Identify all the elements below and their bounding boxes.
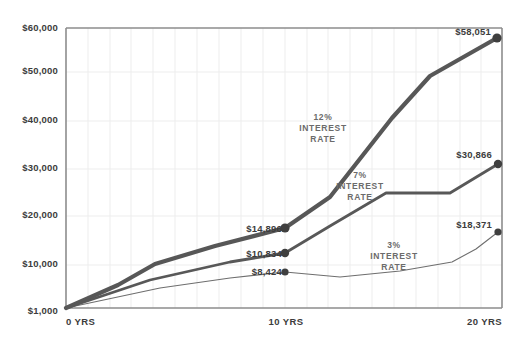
- annot-3pct-line1: 3%: [387, 240, 401, 250]
- y-tick-40000: $40,000: [22, 114, 58, 125]
- label-7pct-10yr: $10,834: [246, 248, 282, 259]
- y-tick-20000: $20,000: [22, 209, 58, 220]
- chart-canvas: $60,000 $50,000 $40,000 $30,000 $20,000 …: [0, 0, 527, 339]
- gridlines-vertical: [88, 28, 481, 308]
- label-12pct-10yr: $14,896: [246, 223, 282, 234]
- label-3pct-20yr: $18,371: [456, 219, 492, 230]
- annotation-12-percent-interest-rate: 12% INTEREST RATE: [299, 112, 347, 144]
- annot-12pct-line2: INTEREST: [299, 123, 347, 133]
- compound-interest-line-chart: $60,000 $50,000 $40,000 $30,000 $20,000 …: [0, 0, 527, 339]
- annot-12pct-line3: RATE: [310, 134, 335, 144]
- x-tick-10yrs: 10 YRS: [269, 316, 304, 327]
- label-7pct-20yr: $30,866: [456, 149, 492, 160]
- label-12pct-20yr: $58,051: [455, 26, 491, 37]
- y-tick-30000: $30,000: [22, 162, 58, 173]
- y-tick-60000: $60,000: [22, 22, 58, 33]
- annot-12pct-line1: 12%: [313, 112, 332, 122]
- y-tick-10000: $10,000: [22, 258, 58, 269]
- annot-3pct-line2: INTEREST: [370, 251, 418, 261]
- annot-3pct-line3: RATE: [381, 262, 406, 272]
- data-point-3pct-10yr: [281, 268, 288, 275]
- y-tick-1000: $1,000: [28, 305, 58, 316]
- annot-7pct-line3: RATE: [347, 192, 372, 202]
- data-point-7pct-20yr: [494, 160, 502, 168]
- annotation-3-percent-interest-rate: 3% INTEREST RATE: [370, 240, 418, 272]
- data-point-12pct-20yr: [492, 33, 501, 42]
- y-tick-50000: $50,000: [22, 65, 58, 76]
- annot-7pct-line1: 7%: [353, 170, 367, 180]
- x-tick-0yrs: 0 YRS: [66, 316, 95, 327]
- label-3pct-10yr: $8,424: [252, 266, 283, 277]
- annot-7pct-line2: INTEREST: [336, 181, 384, 191]
- y-axis-tick-labels: $60,000 $50,000 $40,000 $30,000 $20,000 …: [22, 22, 58, 316]
- x-tick-20yrs: 20 YRS: [467, 316, 502, 327]
- data-point-7pct-10yr: [281, 249, 289, 257]
- x-axis-tick-labels: 0 YRS 10 YRS 20 YRS: [66, 316, 502, 327]
- data-point-3pct-20yr: [494, 228, 501, 235]
